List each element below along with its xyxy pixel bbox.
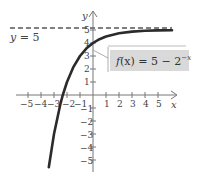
svg-text:1: 1 <box>104 99 110 109</box>
svg-text:−4: −4 <box>34 99 48 109</box>
svg-text:2: 2 <box>84 64 90 74</box>
svg-text:3: 3 <box>130 99 136 109</box>
svg-text:1: 1 <box>84 77 90 87</box>
svg-text:5: 5 <box>84 25 90 35</box>
x-axis-label: x <box>171 99 177 110</box>
y-axis-label: y <box>81 10 88 21</box>
svg-text:−5: −5 <box>20 99 34 109</box>
svg-text:−4: −4 <box>80 143 94 153</box>
leader-line <box>93 50 108 58</box>
svg-text:−5: −5 <box>80 156 94 166</box>
svg-text:2: 2 <box>117 99 123 109</box>
asymptote-label: y = 5 <box>9 31 39 44</box>
graph: y = 5 x y −5 −4 −3 −2 −1 1 2 3 4 5 <box>0 0 200 179</box>
svg-text:3: 3 <box>84 51 90 61</box>
svg-text:5: 5 <box>156 99 162 109</box>
svg-text:−1: −1 <box>80 104 93 114</box>
svg-text:−2: −2 <box>80 117 93 127</box>
svg-text:4: 4 <box>143 99 149 109</box>
svg-text:−3: −3 <box>80 130 94 140</box>
function-label: f(x) = 5 − 2−x <box>115 54 191 68</box>
